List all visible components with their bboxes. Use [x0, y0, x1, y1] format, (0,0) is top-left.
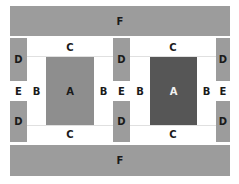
b-block-left-2: B	[94, 57, 113, 125]
e-block-left: E	[10, 81, 27, 101]
d-block-right-top: D	[216, 38, 230, 81]
f-top-band: F	[10, 6, 230, 36]
e-block-right: E	[216, 81, 230, 101]
d-block-mid-top: D	[113, 38, 130, 81]
c-block-right-top: C	[130, 38, 216, 57]
c-block-left-top: C	[27, 38, 113, 57]
d-block-left-top: D	[10, 38, 27, 81]
f-bottom-band: F	[10, 145, 230, 176]
b-block-right-1: B	[130, 57, 150, 125]
a-block-right: A	[150, 57, 197, 125]
e-block-mid: E	[113, 81, 130, 101]
b-block-left-1: B	[27, 57, 46, 125]
d-block-right-bottom: D	[216, 101, 230, 142]
a-block-left: A	[46, 57, 94, 125]
d-block-mid-bottom: D	[113, 101, 130, 142]
b-block-right-2: B	[197, 57, 216, 125]
c-block-left-bottom: C	[27, 125, 113, 142]
d-block-left-bottom: D	[10, 101, 27, 142]
c-block-right-bottom: C	[130, 125, 216, 142]
